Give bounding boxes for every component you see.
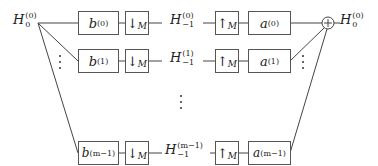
output-label-sub: 0 <box>352 21 363 29</box>
filter-name: a <box>253 146 260 160</box>
input-signal-label: H(0)0 <box>13 12 37 29</box>
filter-name: b <box>82 146 90 160</box>
down-arrow-icon: ↓ <box>127 54 138 69</box>
label-sup: (1) <box>182 50 194 58</box>
filter-name: b <box>89 16 97 31</box>
up-arrow-icon: ↑ <box>217 54 228 69</box>
downsampler-1: ↓M <box>125 49 149 73</box>
down-arrow-icon: ↓ <box>127 16 138 31</box>
analysis-filter-b0: b(0) <box>78 11 119 35</box>
label-sup: (m−1) <box>177 142 203 150</box>
downsampler-m1: ↓M <box>125 141 149 165</box>
output-label-base: H <box>340 12 351 27</box>
factor: M <box>228 151 237 161</box>
label-sub: −1 <box>182 21 194 29</box>
filter-name: a <box>260 54 268 69</box>
filter-index: (m−1) <box>260 149 286 158</box>
intermediate-signal-1: H(1)−1 <box>170 50 194 67</box>
synthesis-filter-a0: a(0) <box>248 11 291 35</box>
intermediate-signal-m1: H(m−1)−1 <box>165 142 203 159</box>
filter-index: (1) <box>268 57 279 66</box>
filter-index: (0) <box>97 19 108 28</box>
filter-name: b <box>89 54 97 69</box>
intermediate-signal-0: H(0)−1 <box>170 12 194 29</box>
filter-name: a <box>260 16 268 31</box>
label-base: H <box>165 142 176 157</box>
upsampler-1: ↑M <box>215 49 239 73</box>
label-sup: (0) <box>182 12 194 20</box>
label-base: H <box>170 12 181 27</box>
up-arrow-icon: ↑ <box>217 146 228 161</box>
filter-index: (0) <box>268 19 279 28</box>
factor: M <box>138 59 147 69</box>
label-sub: −1 <box>177 151 203 159</box>
up-arrow-icon: ↑ <box>217 16 228 31</box>
upsampler-m1: ↑M <box>215 141 239 165</box>
ellipsis-left <box>59 55 61 69</box>
synthesis-filter-a1: a(1) <box>248 49 291 73</box>
label-sub: −1 <box>182 59 194 67</box>
downsampler-0: ↓M <box>125 11 149 35</box>
factor: M <box>138 21 147 31</box>
label-base: H <box>170 50 181 65</box>
output-label-sup: (0) <box>352 12 363 20</box>
upsampler-0: ↑M <box>215 11 239 35</box>
factor: M <box>228 21 237 31</box>
filter-index: (m−1) <box>90 149 116 158</box>
filter-index: (1) <box>97 57 108 66</box>
ellipsis-right <box>302 55 304 69</box>
synthesis-filter-am1: a(m−1) <box>248 141 291 165</box>
ellipsis-center <box>180 95 182 109</box>
input-label-sup: (0) <box>25 12 36 20</box>
factor: M <box>138 151 147 161</box>
analysis-filter-bm1: b(m−1) <box>78 141 119 165</box>
input-label-base: H <box>13 12 24 27</box>
analysis-filter-b1: b(1) <box>78 49 119 73</box>
down-arrow-icon: ↓ <box>127 146 138 161</box>
factor: M <box>228 59 237 69</box>
input-label-sub: 0 <box>25 21 36 29</box>
output-signal-label: H(0)0 <box>340 12 364 29</box>
